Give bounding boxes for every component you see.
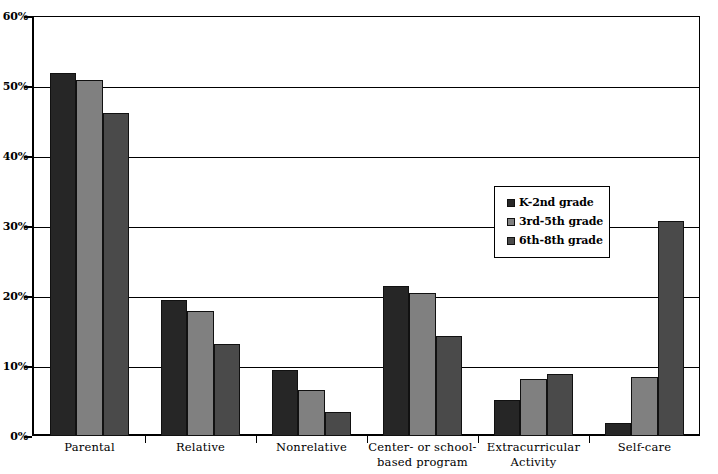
bar-group <box>145 16 256 436</box>
bar[interactable] <box>409 293 435 436</box>
bar[interactable] <box>605 423 631 436</box>
legend-item[interactable]: K-2nd grade <box>495 193 609 212</box>
x-axis-labels: ParentalRelativeNonrelativeCenter- or sc… <box>34 440 700 470</box>
bar-slot <box>436 16 462 436</box>
y-tick-mark <box>24 86 32 88</box>
x-axis-category-label: Extracurricular Activity <box>478 440 589 470</box>
y-tick-mark <box>24 16 32 18</box>
bar-group <box>256 16 367 436</box>
bar-slot <box>298 16 324 436</box>
bar[interactable] <box>383 286 409 436</box>
bar-chart: 0%10%20%30%40%50%60% ParentalRelativeNon… <box>0 0 718 474</box>
bar[interactable] <box>161 300 187 437</box>
bar-slot <box>409 16 435 436</box>
y-tick-mark <box>24 436 32 438</box>
bar-slot <box>325 16 351 436</box>
legend-label: 3rd-5th grade <box>519 215 603 228</box>
x-axis-category-label: Nonrelative <box>256 440 367 470</box>
bar-slot <box>383 16 409 436</box>
bar[interactable] <box>547 374 573 436</box>
y-tick-mark <box>24 296 32 298</box>
legend-label: 6th-8th grade <box>519 234 603 247</box>
y-tick-mark <box>24 226 32 228</box>
y-tick-mark <box>24 366 32 368</box>
bar[interactable] <box>214 344 240 436</box>
bar[interactable] <box>76 80 102 436</box>
bar[interactable] <box>494 400 520 436</box>
bar-slot <box>187 16 213 436</box>
x-axis-category-label: Parental <box>34 440 145 470</box>
x-axis-category-label: Center- or school- based program <box>367 440 478 470</box>
legend-swatch-icon <box>507 237 515 245</box>
bar[interactable] <box>520 379 546 436</box>
bar-slot <box>272 16 298 436</box>
legend-swatch-icon <box>507 199 515 207</box>
bar[interactable] <box>436 336 462 436</box>
chart-legend: K-2nd grade3rd-5th grade6th-8th grade <box>494 186 610 258</box>
legend-label: K-2nd grade <box>519 196 594 209</box>
bar[interactable] <box>631 377 657 436</box>
y-axis: 0%10%20%30%40%50%60% <box>0 16 28 436</box>
bar-slot <box>50 16 76 436</box>
bar[interactable] <box>298 390 324 436</box>
y-tick-mark <box>24 156 32 158</box>
bar[interactable] <box>187 311 213 436</box>
bar-slot <box>658 16 684 436</box>
legend-item[interactable]: 6th-8th grade <box>495 231 609 250</box>
bar-slot <box>103 16 129 436</box>
bar[interactable] <box>272 370 298 437</box>
x-axis-category-label: Relative <box>145 440 256 470</box>
bar[interactable] <box>103 113 129 436</box>
bar-slot <box>161 16 187 436</box>
bar[interactable] <box>658 221 684 436</box>
bar-slot <box>631 16 657 436</box>
bar-group <box>34 16 145 436</box>
bar[interactable] <box>50 73 76 436</box>
bar-group <box>367 16 478 436</box>
bar-slot <box>214 16 240 436</box>
bar[interactable] <box>325 412 351 436</box>
legend-item[interactable]: 3rd-5th grade <box>495 212 609 231</box>
bar-slot <box>76 16 102 436</box>
legend-swatch-icon <box>507 218 515 226</box>
x-axis-category-label: Self-care <box>589 440 700 470</box>
